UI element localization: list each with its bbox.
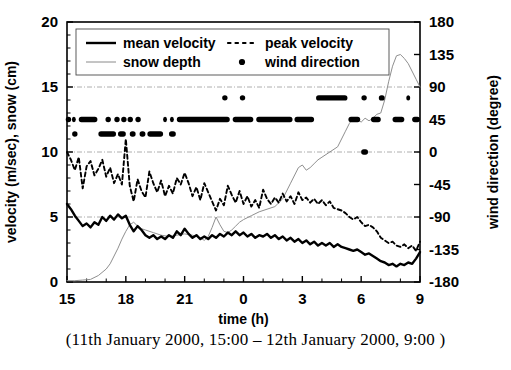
wind-direction-marker — [114, 117, 119, 122]
x-axis-tick-label: 15 — [59, 290, 76, 307]
wind-direction-marker — [105, 117, 110, 122]
wind-direction-marker — [169, 131, 176, 136]
y2-axis-tick-label: 45 — [429, 111, 446, 128]
wind-direction-marker — [79, 117, 98, 122]
y2-axis-tick-label: 180 — [429, 13, 454, 30]
y-axis-tick-label: 20 — [41, 13, 58, 30]
x-axis-tick-label: 18 — [117, 290, 134, 307]
wind-direction-marker — [98, 131, 116, 136]
figure-caption: (11th January 2000, 15:00 – 12th January… — [0, 330, 511, 350]
wind-direction-marker — [379, 95, 385, 100]
legend-label: peak velocity — [265, 35, 353, 51]
wind-direction-marker — [371, 117, 381, 122]
wind-direction-marker — [66, 117, 71, 122]
wind-direction-marker — [72, 117, 76, 122]
wind-direction-marker — [361, 149, 368, 154]
wind-direction-marker — [316, 95, 347, 100]
wind-direction-marker — [256, 117, 292, 122]
x-axis-tick-label: 3 — [298, 290, 306, 307]
series-line-mean-velocity — [67, 204, 420, 266]
y-axis-tick-label: 15 — [41, 78, 58, 95]
y2-axis-title: wind direction (degree) — [485, 75, 501, 230]
wind-direction-marker — [170, 117, 174, 122]
y-axis-tick-label: 5 — [50, 208, 58, 225]
wind-direction-marker — [130, 131, 136, 136]
y2-axis-tick-label: 90 — [429, 78, 446, 95]
x-axis-tick-label: 9 — [416, 290, 424, 307]
y-axis-title: velocity (m/sec), snow (cm) — [3, 61, 19, 243]
wind-direction-marker — [121, 117, 126, 122]
legend-label: wind direction — [264, 54, 360, 70]
y2-axis-tick-label: -135 — [429, 241, 459, 258]
x-axis-tick-label: 6 — [357, 290, 365, 307]
x-axis-title: time (h) — [218, 311, 269, 327]
wind-direction-marker — [361, 95, 366, 100]
wind-direction-marker — [412, 117, 420, 122]
wind-direction-marker — [128, 117, 133, 122]
wind-direction-marker — [177, 117, 230, 122]
legend-label: snow depth — [123, 54, 201, 70]
figure-container: 05101520-180-135-90-45045901351801518210… — [0, 0, 511, 370]
y-axis-tick-label: 0 — [50, 273, 58, 290]
wind-direction-marker — [140, 131, 146, 136]
y2-axis-tick-label: -180 — [429, 273, 459, 290]
y2-axis-tick-label: -90 — [429, 208, 451, 225]
legend-label: mean velocity — [123, 35, 216, 51]
wind-direction-marker — [406, 95, 410, 100]
series-line-snow-depth — [67, 55, 420, 281]
wind-direction-marker — [72, 131, 77, 136]
y2-axis-tick-label: 0 — [429, 143, 437, 160]
wind-direction-marker — [294, 117, 314, 122]
y2-axis-tick-label: 135 — [429, 46, 454, 63]
wind-direction-marker — [233, 117, 254, 122]
wind-direction-marker — [135, 117, 140, 122]
y2-axis-tick-label: -45 — [429, 176, 451, 193]
wind-direction-marker — [222, 95, 227, 100]
wind-direction-marker — [348, 117, 360, 122]
wind-direction-marker — [393, 117, 405, 122]
legend-swatch-dot-marker — [239, 59, 245, 65]
wind-direction-marker — [147, 131, 163, 136]
x-axis-tick-label: 21 — [176, 290, 193, 307]
x-axis-tick-label: 0 — [239, 290, 247, 307]
wind-direction-marker — [240, 95, 245, 100]
wind-direction-marker — [118, 131, 126, 136]
wind-direction-marker — [163, 117, 167, 122]
y-axis-tick-label: 10 — [41, 143, 58, 160]
chart-canvas: 05101520-180-135-90-45045901351801518210… — [0, 0, 511, 340]
